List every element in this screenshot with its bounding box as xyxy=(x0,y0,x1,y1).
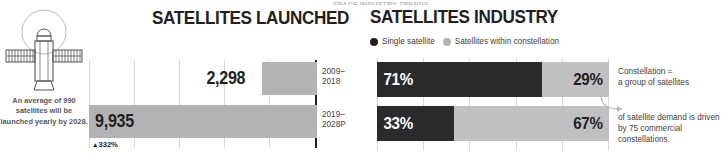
satellite-icon-panel: An average of 990 satellites will be lau… xyxy=(0,4,88,154)
bar-value-2019-2028: 9,935 xyxy=(95,111,134,132)
triangle-up-icon: ▲ xyxy=(92,141,98,148)
bar-2009-2018 xyxy=(262,62,317,95)
stacked-bar-2009-2018: 71% 29% xyxy=(377,62,609,97)
satellite-caption: An average of 990 satellites will be lau… xyxy=(0,96,88,127)
bar-value-2009-2018: 2,298 xyxy=(206,68,245,89)
legend-dot-icon-constellation xyxy=(443,38,451,46)
segment-constellation-2009-2018: 29% xyxy=(542,62,609,97)
segment-constellation-2019-2028: 67% xyxy=(454,106,609,141)
stacked-bar-2019-2028: 33% 67% xyxy=(377,106,609,141)
growth-value: 332% xyxy=(98,140,117,149)
period-label-2009-2018: 2009–2018 xyxy=(322,67,362,87)
launched-chart-title: SATELLITES LAUNCHED xyxy=(152,7,349,28)
growth-indicator: ▲332% xyxy=(92,140,118,149)
industry-chart-plot: 71% 29% 33% 67% xyxy=(377,58,609,150)
segment-value-single-2009-2018: 71% xyxy=(377,70,413,89)
legend-label-single: Single satellite xyxy=(382,37,435,46)
top-clipped-heading: SPACE INDUSTRY TRENDS xyxy=(333,0,529,5)
segment-value-single-2019-2028: 33% xyxy=(377,114,413,133)
infographic-root: SPACE INDUSTRY TRENDS xyxy=(0,0,727,158)
legend-label-constellation: Satellites within constellation xyxy=(455,37,559,46)
industry-chart-title: SATELLITES INDUSTRY xyxy=(370,6,558,28)
satellite-icon xyxy=(4,6,84,94)
legend-item-constellation: Satellites within constellation xyxy=(443,37,559,46)
segment-single-2009-2018: 71% xyxy=(377,62,542,97)
legend-item-single: Single satellite xyxy=(370,37,435,46)
segment-single-2019-2028: 33% xyxy=(377,106,454,141)
industry-legend: Single satellite Satellites within const… xyxy=(370,37,559,46)
period-label-2019-2028: 2019–2028P xyxy=(322,110,362,130)
segment-value-constellation-2009-2018: 29% xyxy=(573,70,609,89)
note-constellation-definition: Constellation =a group of satellites xyxy=(618,66,726,88)
note-satellite-demand: of satellite demand is driven by 75 comm… xyxy=(618,112,726,145)
legend-dot-icon-single xyxy=(370,38,378,46)
launched-chart-plot: 2,298 9,935 xyxy=(89,60,317,148)
segment-value-constellation-2019-2028: 67% xyxy=(573,114,609,133)
